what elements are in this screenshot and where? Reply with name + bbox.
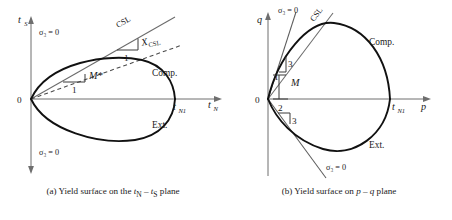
panel-b-svg: q p 0 σ₃ = 0 σ₃ = 0 CSL M 3 1 2 3 Comp. … (226, 0, 452, 180)
panel-b-ext-label: Ext. (369, 140, 384, 150)
caption-a: (a) Yield surface on the tN – tS plane (0, 182, 226, 216)
panel-a-x-axis-label-text: t (208, 99, 212, 110)
panel-a-mstar-slope-triangle (63, 74, 85, 82)
panel-a-y-axis-label-text: t (18, 14, 22, 25)
panel-a-y-axis-label: t S (18, 14, 28, 27)
panel-a-origin-label: 0 (17, 95, 22, 105)
panel-b-y-axis-label: q (257, 14, 262, 25)
panel-a-x-axis-label-sub: N (212, 105, 218, 112)
panel-a-csl-slope-label-sub: CSL (148, 39, 161, 48)
panel-a-csl-label: CSL (115, 14, 133, 29)
panel-a-sigma3-bottom-label: σ₃ = 0 (39, 148, 59, 157)
panel-b-csl-label: CSL (308, 6, 324, 23)
panel-a-apex-label-text: t (173, 101, 177, 112)
panel-b-sigma3-bottom-label: σ₃ = 0 (326, 163, 346, 172)
caption-a-prefix: (a) (46, 186, 56, 196)
panel-b-yield-surface-p-q: q p 0 σ₃ = 0 σ₃ = 0 CSL M 3 1 2 3 Comp. … (226, 0, 452, 180)
panel-b-slope-top-run: 1 (274, 72, 279, 82)
panel-b-x-axis (268, 96, 431, 102)
panel-b-sigma3-top-label: σ₃ = 0 (278, 6, 298, 15)
panel-b-slope-bottom-run: 3 (292, 116, 297, 126)
caption-a-text: (a) Yield surface on the tN – tS plane (46, 186, 179, 199)
panel-b-origin-label: 0 (255, 95, 260, 105)
panel-b-m-label: M (290, 77, 300, 88)
panel-a-mstar-slope-run: 1 (72, 85, 77, 95)
panel-a-yield-surface-tn-ts: t S t N 0 σ₃ = 0 σ₃ = 0 CSL X CSL 1 M* 1 (0, 0, 226, 180)
panel-a-ext-label: Ext. (152, 120, 167, 130)
panel-a-apex-label-sub: N1 (177, 107, 186, 114)
panel-b-sigma3-lower-line (268, 99, 326, 178)
panel-b-apex-label: t N1 (392, 101, 405, 114)
caption-b-text: (b) Yield surface on p – q plane (282, 186, 397, 197)
panel-b-csl-line (268, 13, 333, 99)
panel-b-comp-label: Comp. (369, 37, 394, 47)
caption-b: (b) Yield surface on p – q plane (226, 182, 452, 216)
panel-a-yield-curve-compression (31, 58, 175, 99)
caption-b-prefix: (b) (282, 186, 293, 196)
panel-a-x-axis (31, 96, 222, 102)
panel-b-apex-label-sub: N1 (396, 107, 405, 114)
figure-root: t S t N 0 σ₃ = 0 σ₃ = 0 CSL X CSL 1 M* 1 (0, 0, 452, 220)
panel-a-x-axis-label: t N (208, 99, 218, 112)
panel-b-slope-bottom-rise: 2 (278, 103, 283, 113)
panel-a-csl-slope-run: 1 (124, 53, 129, 63)
panel-b-apex-label-text: t (392, 101, 396, 112)
panel-a-mstar-label: M* (88, 70, 103, 81)
panel-a-csl-slope-label: X CSL (139, 33, 161, 49)
panel-a-y-axis-label-sub: S (24, 20, 28, 27)
panel-a-apex-label: t N1 (173, 101, 186, 114)
panel-b-slope-top-rise: 3 (288, 59, 293, 69)
panel-a-comp-label: Comp. (152, 68, 177, 78)
panel-b-x-axis-label: p (420, 101, 426, 112)
panel-a-svg: t S t N 0 σ₃ = 0 σ₃ = 0 CSL X CSL 1 M* 1 (0, 0, 226, 180)
panel-a-sigma3-top-label: σ₃ = 0 (39, 28, 59, 37)
